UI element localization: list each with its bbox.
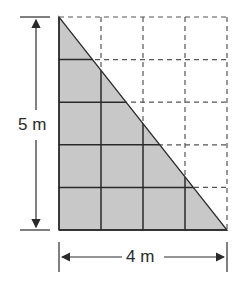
base-label: 4 m xyxy=(126,248,154,266)
triangle-grid-diagram xyxy=(0,0,241,286)
height-label: 5 m xyxy=(18,116,46,134)
